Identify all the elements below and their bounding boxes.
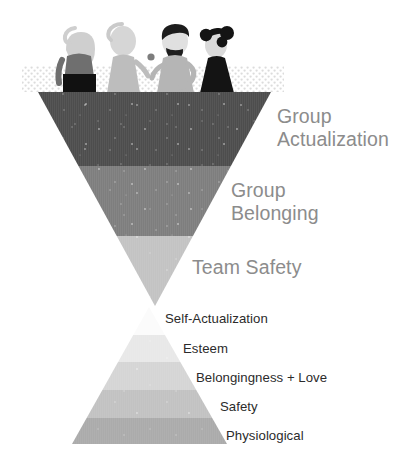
diagram-canvas [0,0,403,466]
label-safety: Safety [220,399,258,415]
person-4 [200,26,234,93]
label-group-actualization: Group Actualization [277,105,389,151]
label-group-actualization-line1: Group [277,105,389,128]
person-1 [58,28,96,93]
hierarchy-of-needs-figure: Group Actualization Group Belonging Team… [0,0,403,466]
label-group-belonging: Group Belonging [231,179,319,225]
label-esteem: Esteem [183,341,228,357]
label-self-actualization: Self-Actualization [165,311,268,327]
label-group-belonging-line2: Belonging [231,202,319,225]
label-group-belonging-line1: Group [231,179,319,202]
label-team-safety: Team Safety [192,256,301,279]
label-team-safety-line1: Team Safety [192,256,301,279]
label-physiological: Physiological [226,428,304,444]
label-belongingness-love: Belongingness + Love [196,370,327,386]
label-group-actualization-line2: Actualization [277,128,389,151]
